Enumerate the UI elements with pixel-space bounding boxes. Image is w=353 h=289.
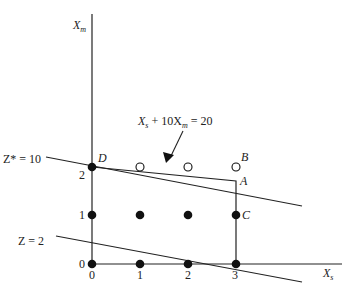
point-0-2-D xyxy=(88,163,97,172)
point-1-1 xyxy=(136,211,145,220)
open-points xyxy=(136,163,240,171)
y-tick-0: 0 xyxy=(79,257,85,271)
y-tick-2: 2 xyxy=(79,168,85,182)
filled-points xyxy=(88,163,241,269)
point-3-0 xyxy=(232,260,241,269)
diagram-canvas: Xm Xs 0 1 2 3 0 1 2 Xs + 10Xm = 20 Z* = … xyxy=(0,0,353,289)
x-axis-label: Xs xyxy=(322,266,333,282)
point-label-C: C xyxy=(242,208,251,222)
x-tick-0: 0 xyxy=(89,268,95,282)
point-label-A: A xyxy=(239,174,248,188)
point-2-0 xyxy=(184,260,193,269)
point-0-1 xyxy=(88,211,97,220)
point-label-B: B xyxy=(241,150,249,164)
point-label-D: D xyxy=(97,151,107,165)
point-1-0 xyxy=(136,260,145,269)
y-axis-label: Xm xyxy=(72,18,86,34)
point-2-2-open xyxy=(184,163,192,171)
point-3-2-B xyxy=(232,163,240,171)
point-1-2-open xyxy=(136,163,144,171)
x-tick-2: 2 xyxy=(185,268,191,282)
point-0-0 xyxy=(88,260,97,269)
constraint-boundary xyxy=(92,167,236,264)
point-2-1 xyxy=(184,211,193,220)
constraint-equation-label: Xs + 10Xm = 20 xyxy=(137,114,212,130)
objective-label-z2: Z = 2 xyxy=(18,234,44,248)
y-tick-1: 1 xyxy=(79,208,85,222)
point-3-1-C xyxy=(232,211,241,220)
x-tick-1: 1 xyxy=(137,268,143,282)
constraint-pointer-line xyxy=(170,131,183,158)
x-tick-3: 3 xyxy=(232,268,238,282)
objective-label-optimal: Z* = 10 xyxy=(3,152,41,166)
